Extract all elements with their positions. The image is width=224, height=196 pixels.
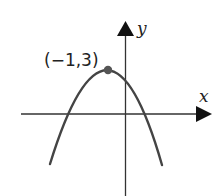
y-axis-label: y (136, 18, 147, 38)
y-axis-arrow-icon (117, 21, 134, 36)
parabola-figure: (−1,3) x y (0, 0, 224, 196)
x-axis-label: x (199, 86, 209, 106)
vertex-point (104, 66, 112, 74)
x-axis-arrow-icon (196, 106, 212, 122)
vertex-label: (−1,3) (44, 50, 99, 70)
parabola-curve (50, 70, 162, 165)
